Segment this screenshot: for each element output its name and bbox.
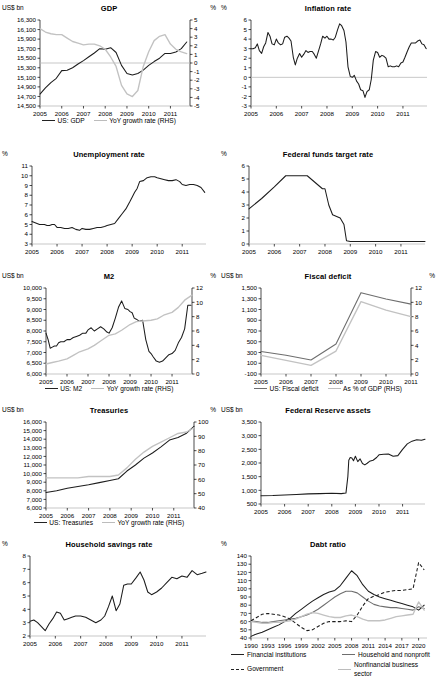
svg-text:2002: 2002 [311,642,325,649]
svg-text:16,000: 16,000 [23,418,42,425]
legend-swatch-dash [231,669,244,670]
svg-text:2008: 2008 [325,508,339,515]
svg-text:4: 4 [244,35,248,42]
svg-text:2008: 2008 [100,248,114,255]
legend-swatch-grey [91,388,104,389]
svg-text:2010: 2010 [150,640,164,647]
chart-panel-unemployment: %Unemployment rate3456789101120052006200… [0,150,218,268]
legend-label: US: GDP [58,117,85,124]
svg-text:6,000: 6,000 [27,370,43,377]
chart-legend: US: Fiscal deficitAs % of GDP (RHS) [219,385,437,392]
svg-text:500: 500 [247,338,258,345]
legend-label: US: Fiscal deficit [270,385,319,392]
svg-text:40: 40 [240,634,247,641]
svg-text:2005: 2005 [254,508,268,515]
svg-text:80: 80 [198,447,205,454]
svg-text:2007: 2007 [295,110,309,117]
svg-text:14,900: 14,900 [17,83,36,90]
svg-text:15,500: 15,500 [17,54,36,61]
chart-panel-fedfunds: %Federal funds target rate01234562005200… [219,150,437,268]
svg-text:1990: 1990 [244,642,258,649]
svg-text:1999: 1999 [294,642,308,649]
svg-text:4: 4 [25,230,29,237]
svg-text:2011: 2011 [362,642,376,649]
svg-text:2005: 2005 [25,248,39,255]
legend-label: Government [247,664,283,674]
svg-text:900: 900 [247,316,258,323]
svg-text:10: 10 [196,299,203,306]
svg-text:110: 110 [237,577,247,584]
legend-swatch-grey [328,388,341,389]
svg-text:-2: -2 [194,76,200,83]
chart-panel-treasuries: US$ bn%Treasuries6,0007,0008,0009,00010,… [0,406,218,534]
chart-legend: US: GDPYoY growth rate (RHS) [0,117,218,124]
svg-text:1: 1 [242,227,246,234]
chart-legend: Financial institutionsHousehold and nonp… [231,650,435,679]
svg-text:0: 0 [242,240,246,247]
svg-text:90: 90 [198,433,205,440]
svg-text:2005: 2005 [39,378,53,385]
svg-text:1: 1 [244,64,248,71]
svg-text:500: 500 [247,500,258,507]
series-line [261,302,411,366]
svg-text:1,300: 1,300 [242,295,258,302]
svg-text:70: 70 [198,461,205,468]
svg-text:2010: 2010 [372,508,386,515]
legend-item: As % of GDP (RHS) [328,385,402,392]
svg-text:0: 0 [415,370,419,377]
svg-text:2007: 2007 [81,378,95,385]
svg-text:2010: 2010 [379,378,393,385]
svg-text:2011: 2011 [175,640,189,647]
svg-text:2010: 2010 [144,378,158,385]
svg-text:2008: 2008 [102,378,116,385]
plot-fedfunds: 01234562005200620072008200920102011 [219,150,437,268]
svg-text:2009: 2009 [125,248,139,255]
chart-panel-m2: US$ bn%M26,0006,5007,0007,5008,0008,5009… [0,272,218,400]
svg-text:11: 11 [22,162,29,169]
svg-text:2: 2 [196,356,200,363]
svg-text:2,000: 2,000 [242,459,258,466]
svg-text:100: 100 [247,359,258,366]
svg-text:2010: 2010 [371,110,385,117]
legend-swatch-grey [338,669,351,670]
svg-text:12: 12 [415,284,422,291]
svg-text:14,500: 14,500 [17,102,36,109]
plot-gdp: 14,50014,70014,90015,10015,30015,50015,7… [0,4,218,132]
svg-text:8: 8 [25,191,29,198]
svg-text:1: 1 [194,51,198,58]
svg-text:100: 100 [237,585,248,592]
svg-text:100: 100 [198,418,209,425]
svg-text:0: 0 [244,74,248,81]
svg-text:2006: 2006 [60,378,74,385]
svg-text:70: 70 [240,610,247,617]
chart-panel-savings: %Household savings rate23456782005200620… [0,540,218,660]
series-line [251,563,424,631]
legend-swatch-mid [254,388,267,389]
svg-text:5: 5 [23,592,27,599]
series-line [251,24,426,98]
svg-text:2: 2 [415,356,419,363]
svg-text:2010: 2010 [150,248,164,255]
legend-swatch-mid [342,654,355,655]
svg-text:9,500: 9,500 [27,295,43,302]
plot-inflation: -3-2-10123456200520062007200820092010201… [219,4,437,132]
svg-text:2010: 2010 [369,248,383,255]
plot-area-savings: 23456782005200620072008200920102011 [0,540,218,660]
svg-text:2006: 2006 [55,110,69,117]
svg-text:15,100: 15,100 [17,74,36,81]
svg-text:14,700: 14,700 [17,93,36,100]
legend-label: US: M2 [60,385,82,392]
plot-area-gdp: 14,50014,70014,90015,10015,30015,50015,7… [0,4,218,132]
svg-text:4: 4 [196,342,200,349]
svg-text:2007: 2007 [82,512,96,519]
svg-text:7: 7 [23,566,27,573]
series-line [32,177,205,231]
svg-text:8,000: 8,000 [27,327,43,334]
series-line [251,571,424,637]
series-line [46,428,194,478]
svg-text:9: 9 [25,182,29,189]
series-line [40,42,187,94]
svg-text:4: 4 [415,342,419,349]
series-line [249,176,425,242]
svg-text:2020: 2020 [412,642,426,649]
